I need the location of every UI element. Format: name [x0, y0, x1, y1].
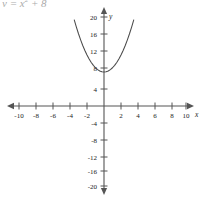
y-axis-top-arrow-icon — [101, 7, 107, 14]
y-tick-label: -4 — [91, 120, 97, 128]
axes-group — [7, 7, 194, 195]
y-tick-label: -16 — [88, 168, 98, 176]
x-tick-label: 6 — [153, 112, 157, 120]
x-tick-label: -4 — [67, 112, 73, 120]
graph-page: y = x2 + 8 -10 — [0, 0, 201, 200]
x-tick-label: 4 — [136, 112, 140, 120]
x-tick-label: 8 — [170, 112, 174, 120]
y-axis-label: y — [108, 12, 113, 21]
x-tick-label: -2 — [84, 112, 90, 120]
y-axis-bottom-arrow-icon — [101, 188, 107, 195]
x-axis-left-arrow-icon — [7, 103, 14, 109]
y-tick-label: 4 — [94, 86, 98, 94]
y-tick-label: -20 — [88, 183, 98, 191]
y-tick-label: -12 — [88, 154, 98, 162]
x-axis-tick-labels: -10 -8 -6 -4 -2 2 4 6 8 10 — [14, 112, 190, 120]
x-tick-label: 10 — [183, 112, 191, 120]
y-tick-label: -8 — [91, 137, 97, 145]
x-tick-label: 2 — [119, 112, 123, 120]
y-axis-tick-labels: 20 16 12 8 4 -4 -8 -12 -16 -20 — [88, 14, 98, 191]
y-tick-label: 16 — [90, 31, 98, 39]
coordinate-plane: -10 -8 -6 -4 -2 2 4 6 8 10 20 16 12 — [0, 0, 201, 200]
x-axis-right-arrow-icon — [187, 103, 194, 109]
y-tick-label: 12 — [90, 48, 98, 56]
x-axis-label: x — [194, 110, 199, 119]
x-tick-label: -6 — [50, 112, 56, 120]
y-tick-label: 20 — [90, 14, 98, 22]
x-tick-label: -10 — [14, 112, 24, 120]
x-tick-label: -8 — [33, 112, 39, 120]
